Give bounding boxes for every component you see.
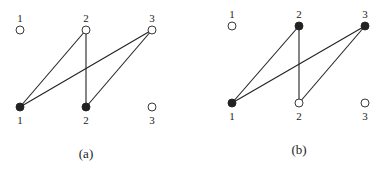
panel-a: 123123(a)	[16, 12, 156, 161]
filled-node	[16, 103, 24, 111]
node-label: 2	[296, 110, 302, 122]
open-node	[228, 22, 236, 30]
node-label: 2	[83, 114, 89, 126]
filled-node	[295, 22, 303, 30]
node-label: 3	[149, 12, 155, 24]
open-node	[148, 26, 156, 34]
open-node	[295, 99, 303, 107]
bipartite-graph-figure: 123123(a) 123123(b)	[0, 0, 380, 172]
panel-caption: (a)	[79, 146, 93, 161]
node-label: 3	[362, 110, 368, 122]
node-label: 1	[229, 110, 235, 122]
node-label: 2	[296, 8, 302, 20]
node-label: 2	[83, 12, 89, 24]
open-node	[361, 99, 369, 107]
node-label: 3	[362, 8, 368, 20]
filled-node	[228, 99, 236, 107]
filled-node	[361, 22, 369, 30]
node-label: 1	[229, 8, 235, 20]
open-node	[16, 26, 24, 34]
node-label: 1	[17, 12, 23, 24]
edge	[232, 26, 299, 103]
open-node	[82, 26, 90, 34]
panel-b: 123123(b)	[228, 8, 369, 157]
node-label: 1	[17, 114, 23, 126]
edge	[86, 30, 152, 107]
filled-node	[82, 103, 90, 111]
edge	[20, 30, 86, 107]
node-label: 3	[149, 114, 155, 126]
open-node	[148, 103, 156, 111]
panel-caption: (b)	[291, 142, 306, 157]
edge	[299, 26, 365, 103]
